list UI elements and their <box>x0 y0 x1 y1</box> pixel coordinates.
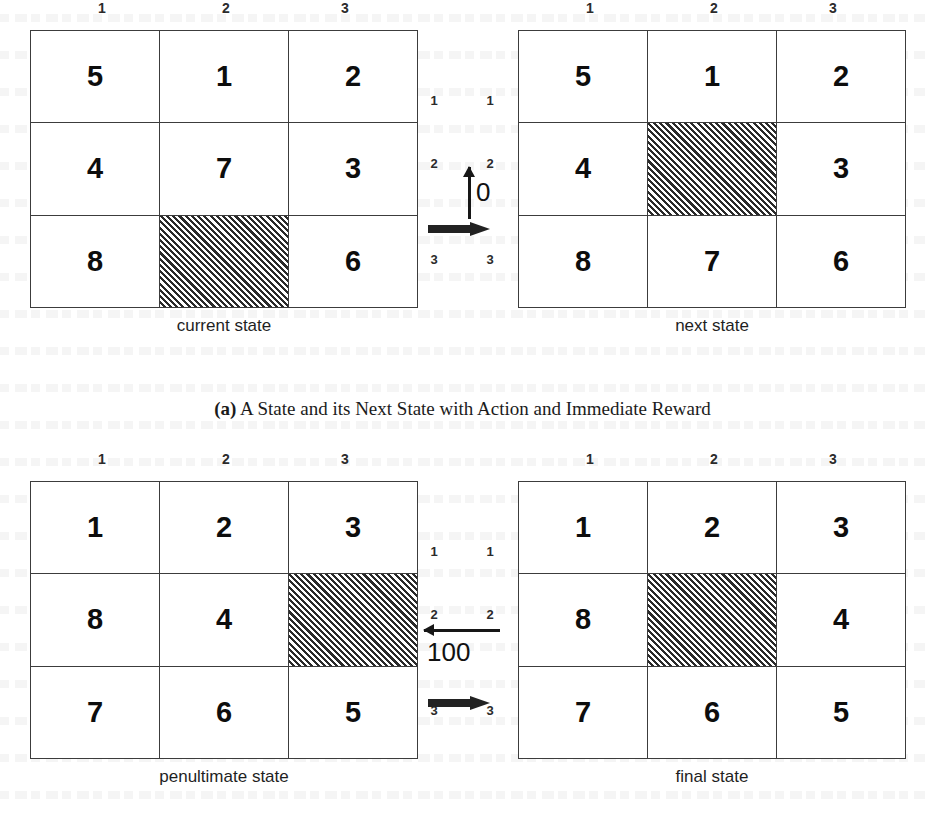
tile-r1c2[interactable]: 1 <box>160 31 289 123</box>
next-state-label: next state <box>518 316 906 336</box>
current-state-label: current state <box>30 316 418 336</box>
tile-r3c1[interactable]: 7 <box>31 667 160 759</box>
tile-r2c1[interactable]: 4 <box>31 123 160 215</box>
blank-tile-r2c3[interactable] <box>289 574 418 666</box>
tile-r2c3[interactable]: 3 <box>289 123 418 215</box>
tile-r1c3[interactable]: 2 <box>777 31 906 123</box>
column-header-3: 3 <box>341 0 349 16</box>
next-state-column-headers: 1 2 3 <box>518 0 906 30</box>
arrow-left-icon <box>424 629 500 632</box>
reward-label-a: 0 <box>476 177 490 208</box>
penultimate-state-column-headers: 1 2 3 <box>30 451 418 481</box>
tile-r1c1[interactable]: 5 <box>31 31 160 123</box>
right-grid-row-header-2: 2 <box>486 607 493 622</box>
tile-r3c2[interactable]: 6 <box>160 667 289 759</box>
current-state-grid: 5 1 2 4 7 3 8 6 <box>30 30 418 308</box>
tile-r2c1[interactable]: 4 <box>519 123 648 215</box>
tile-r3c3[interactable]: 5 <box>777 667 906 759</box>
penultimate-state-grid: 1 2 3 8 4 7 6 5 <box>30 481 418 759</box>
tile-r3c2[interactable]: 7 <box>648 216 777 308</box>
tile-r1c3[interactable]: 3 <box>777 482 906 574</box>
column-header-2: 2 <box>710 0 718 16</box>
tile-r3c3[interactable]: 6 <box>289 216 418 308</box>
column-header-2: 2 <box>710 451 718 467</box>
tile-r3c1[interactable]: 8 <box>31 216 160 308</box>
left-grid-row-header-3: 3 <box>430 252 437 267</box>
tile-r1c2[interactable]: 2 <box>648 482 777 574</box>
tile-r1c1[interactable]: 5 <box>519 31 648 123</box>
thick-arrow-right-icon-a <box>428 222 490 235</box>
final-state-grid: 1 2 3 8 4 7 6 5 <box>518 481 906 759</box>
column-header-2: 2 <box>222 0 230 16</box>
right-grid-row-header-1: 1 <box>486 544 493 559</box>
tile-r3c2[interactable]: 6 <box>648 667 777 759</box>
final-state-label: final state <box>518 767 906 787</box>
transition-gutter-a: 1 2 3 1 2 3 0 <box>418 0 518 340</box>
tile-r3c1[interactable]: 7 <box>519 667 648 759</box>
final-state-column-headers: 1 2 3 <box>518 451 906 481</box>
thick-arrow-head <box>470 222 490 236</box>
thick-arrow-head <box>470 696 490 710</box>
thick-arrow-shaft <box>428 699 472 707</box>
figure-panel-a: 1 2 3 5 1 2 4 7 3 8 6 current state 1 2 … <box>0 0 925 435</box>
current-state-column-headers: 1 2 3 <box>30 0 418 30</box>
tile-r3c3[interactable]: 6 <box>777 216 906 308</box>
left-grid-row-header-2: 2 <box>430 607 437 622</box>
column-header-1: 1 <box>98 451 106 467</box>
column-header-3: 3 <box>829 0 837 16</box>
tile-r3c1[interactable]: 8 <box>519 216 648 308</box>
tile-r1c3[interactable]: 3 <box>289 482 418 574</box>
column-header-3: 3 <box>829 451 837 467</box>
column-header-3: 3 <box>341 451 349 467</box>
tile-r1c1[interactable]: 1 <box>519 482 648 574</box>
penultimate-state-label: penultimate state <box>30 767 418 787</box>
tile-r1c3[interactable]: 2 <box>289 31 418 123</box>
tile-r1c2[interactable]: 2 <box>160 482 289 574</box>
tile-r2c1[interactable]: 8 <box>519 574 648 666</box>
left-grid-row-header-1: 1 <box>430 93 437 108</box>
tile-r2c2[interactable]: 7 <box>160 123 289 215</box>
figure-a-caption-tag: (a) <box>214 398 236 419</box>
blank-tile-r3c2[interactable] <box>160 216 289 308</box>
figure-a-caption-text: A State and its Next State with Action a… <box>240 398 711 419</box>
transition-gutter-b: 1 2 3 1 2 3 100 <box>418 451 518 791</box>
tile-r2c3[interactable]: 4 <box>777 574 906 666</box>
thick-arrow-right-icon-b <box>428 696 490 709</box>
right-grid-row-header-1: 1 <box>486 93 493 108</box>
tile-r2c1[interactable]: 8 <box>31 574 160 666</box>
tile-r1c1[interactable]: 1 <box>31 482 160 574</box>
tile-r3c3[interactable]: 5 <box>289 667 418 759</box>
column-header-1: 1 <box>586 451 594 467</box>
tile-r1c2[interactable]: 1 <box>648 31 777 123</box>
column-header-1: 1 <box>586 0 594 16</box>
thick-arrow-shaft <box>428 225 472 233</box>
tile-r2c3[interactable]: 3 <box>777 123 906 215</box>
figure-a-caption: (a) A State and its Next State with Acti… <box>0 398 925 420</box>
left-grid-row-header-1: 1 <box>430 544 437 559</box>
blank-tile-r2c2[interactable] <box>648 574 777 666</box>
tile-r2c2[interactable]: 4 <box>160 574 289 666</box>
right-grid-row-header-3: 3 <box>486 252 493 267</box>
column-header-2: 2 <box>222 451 230 467</box>
blank-tile-r2c2[interactable] <box>648 123 777 215</box>
column-header-1: 1 <box>98 0 106 16</box>
reward-label-b: 100 <box>427 637 470 668</box>
arrow-up-icon <box>468 167 471 219</box>
next-state-grid: 5 1 2 4 3 8 7 6 <box>518 30 906 308</box>
figure-panel-b: 1 2 3 1 2 3 8 4 7 6 5 penultimate state … <box>0 435 925 826</box>
